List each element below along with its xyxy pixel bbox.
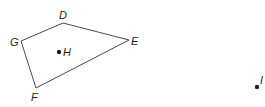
label-e: E <box>131 35 139 47</box>
label-g: G <box>10 36 19 48</box>
label-h: H <box>63 46 71 58</box>
label-f: F <box>31 91 39 103</box>
quadrilateral-defg <box>21 23 129 88</box>
point-i-dot <box>255 85 259 89</box>
geometry-diagram: D E F G H I <box>0 0 265 107</box>
label-d: D <box>59 9 67 21</box>
point-h-dot <box>57 50 61 54</box>
label-i: I <box>260 74 263 86</box>
